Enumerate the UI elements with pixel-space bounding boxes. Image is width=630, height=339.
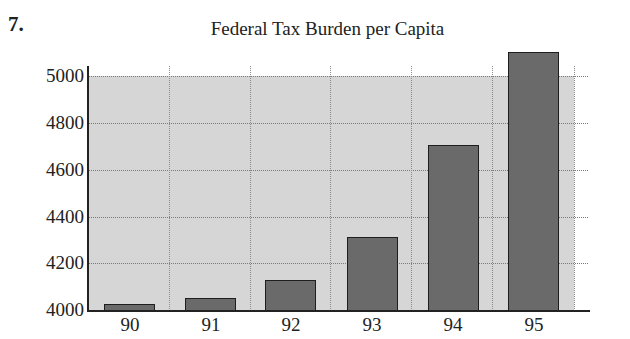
vgrid xyxy=(330,66,331,311)
x-tick-label: 93 xyxy=(342,314,402,336)
vgrid xyxy=(250,66,251,311)
plot-area xyxy=(88,76,574,311)
vgrid xyxy=(492,66,493,311)
bar-94 xyxy=(428,145,479,311)
bar-92 xyxy=(265,280,316,311)
y-tick-label: 4400 xyxy=(28,207,84,227)
x-axis xyxy=(87,310,590,312)
y-tick-label: 4600 xyxy=(28,160,84,180)
chart-title: Federal Tax Burden per Capita xyxy=(0,18,630,40)
x-tick-label: 94 xyxy=(423,314,483,336)
x-tick-label: 90 xyxy=(100,314,160,336)
vgrid xyxy=(411,66,412,311)
y-tick-label: 4200 xyxy=(28,253,84,273)
x-tick-label: 92 xyxy=(261,314,321,336)
y-tick-label: 4000 xyxy=(28,300,84,320)
y-tick-label: 5000 xyxy=(28,66,84,86)
vgrid xyxy=(574,66,575,311)
vgrid xyxy=(169,66,170,311)
y-axis xyxy=(87,66,89,312)
x-tick-label: 91 xyxy=(181,314,241,336)
x-tick-label: 95 xyxy=(504,314,564,336)
y-tick-label: 4800 xyxy=(28,113,84,133)
bar-95 xyxy=(508,52,559,311)
bar-93 xyxy=(347,237,398,311)
